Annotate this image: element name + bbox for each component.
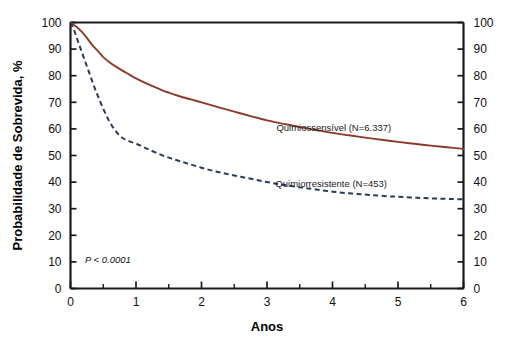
y-axis-title: Probabilidade de Sobrevida, % (10, 60, 25, 250)
y-tick-label-right: 70 (474, 96, 488, 110)
y-tick-label-right: 100 (474, 16, 494, 30)
x-tick-label: 1 (133, 295, 140, 309)
y-tick-label-left: 30 (48, 202, 62, 216)
x-axis-title: Anos (251, 319, 284, 334)
kaplan-meier-plot: 0102030405060708090100 01020304050607080… (0, 0, 524, 342)
y-tick-label-right: 0 (474, 282, 481, 296)
y-tick-label-right: 50 (474, 149, 488, 163)
survival-chart-figure: 0102030405060708090100 01020304050607080… (0, 0, 524, 342)
plot-frame (71, 23, 464, 289)
y-tick-label-right: 10 (474, 255, 488, 269)
y-tick-label-right: 20 (474, 229, 488, 243)
y-axis-right-tick-labels: 0102030405060708090100 (474, 16, 494, 296)
survival-curves (71, 23, 464, 200)
y-tick-label-right: 80 (474, 69, 488, 83)
x-tick-label: 0 (67, 295, 74, 309)
series-label-2: Quimiorresistente (N=453) (275, 178, 387, 189)
y-tick-label-left: 50 (48, 149, 62, 163)
x-tick-label: 4 (329, 295, 336, 309)
y-tick-label-left: 0 (55, 282, 62, 296)
y-tick-label-left: 40 (48, 175, 62, 189)
x-axis-tick-labels: 0123456 (67, 295, 467, 309)
y-tick-label-right: 90 (474, 42, 488, 56)
series-label-1: Quimiossensível (N=6.337) (276, 122, 391, 133)
x-tick-label: 6 (460, 295, 467, 309)
y-tick-label-left: 80 (48, 69, 62, 83)
y-tick-label-right: 40 (474, 175, 488, 189)
series-inline-labels: Quimiossensível (N=6.337)Quimiorresisten… (275, 122, 391, 189)
x-tick-label: 5 (395, 295, 402, 309)
y-axis-left-tick-labels: 0102030405060708090100 (41, 16, 61, 296)
survival-curve-1 (71, 23, 464, 149)
x-tick-label: 3 (264, 295, 271, 309)
y-tick-label-right: 30 (474, 202, 488, 216)
y-tick-label-right: 60 (474, 122, 488, 136)
chart-annotations: P < 0.0001 (85, 254, 131, 265)
survival-curve-2 (71, 23, 464, 200)
y-tick-label-left: 60 (48, 122, 62, 136)
y-tick-label-left: 70 (48, 96, 62, 110)
y-tick-label-left: 10 (48, 255, 62, 269)
p-value-annotation: P < 0.0001 (85, 254, 131, 265)
x-tick-label: 2 (198, 295, 205, 309)
y-tick-label-left: 90 (48, 42, 62, 56)
y-tick-label-left: 20 (48, 229, 62, 243)
y-tick-label-left: 100 (41, 16, 61, 30)
